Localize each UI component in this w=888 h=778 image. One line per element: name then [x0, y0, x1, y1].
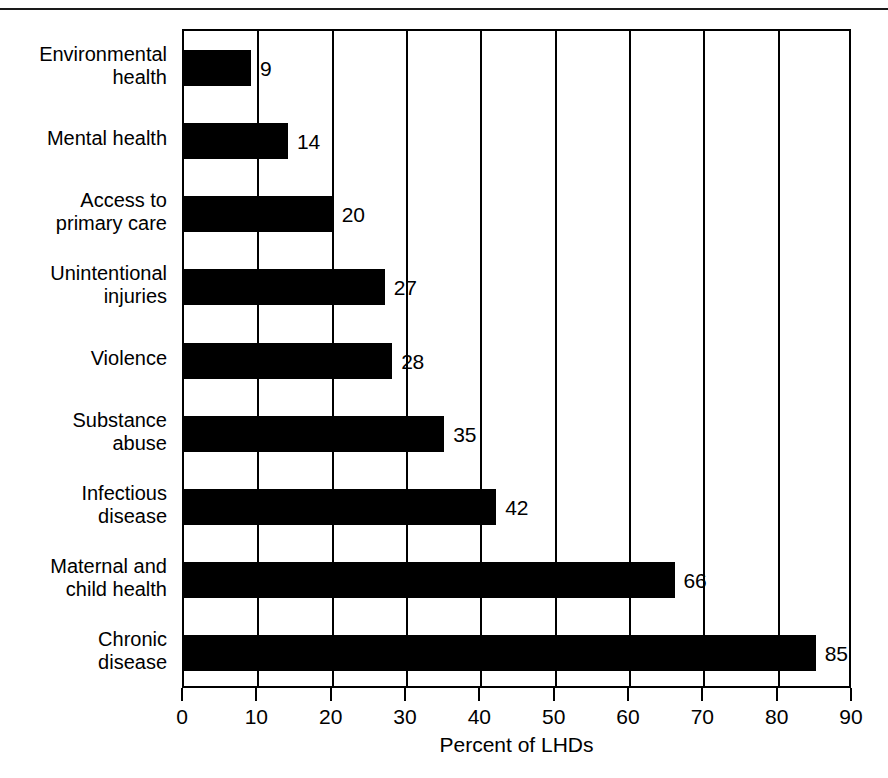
bar-row: 20 [184, 196, 849, 232]
x-tick-label-90: 90 [839, 705, 862, 729]
x-tick-0 [181, 688, 183, 701]
bar-row: 9 [184, 50, 849, 86]
bar-row: 66 [184, 562, 849, 598]
plot-area: 91420272835426685 [182, 29, 851, 688]
category-label: Unintentional injuries [0, 262, 167, 308]
bar-value-label: 85 [825, 643, 848, 664]
bar-chart-figure: 91420272835426685 Environmental healthMe… [0, 0, 888, 778]
x-tick-label-10: 10 [245, 705, 268, 729]
x-tick-label-40: 40 [468, 705, 491, 729]
bar [184, 489, 496, 525]
bar [184, 635, 816, 671]
x-tick-80 [776, 688, 778, 701]
bar-value-label: 9 [260, 57, 271, 78]
x-axis-title: Percent of LHDs [182, 733, 851, 757]
category-label: Maternal and child health [0, 555, 167, 601]
bar-row: 28 [184, 343, 849, 379]
x-tick-label-70: 70 [691, 705, 714, 729]
x-tick-label-50: 50 [542, 705, 565, 729]
bar-value-label: 14 [297, 130, 320, 151]
bar-value-label: 35 [453, 423, 476, 444]
top-divider-rule [0, 8, 888, 10]
bar [184, 123, 288, 159]
category-label: Infectious disease [0, 482, 167, 528]
category-label: Violence [0, 347, 167, 370]
x-tick-10 [255, 688, 257, 701]
category-label: Environmental health [0, 43, 167, 89]
x-tick-60 [627, 688, 629, 701]
bar [184, 50, 251, 86]
category-label: Mental health [0, 127, 167, 150]
x-tick-label-80: 80 [765, 705, 788, 729]
category-label: Access to primary care [0, 189, 167, 235]
x-tick-70 [701, 688, 703, 701]
bar-row: 42 [184, 489, 849, 525]
bar-row: 14 [184, 123, 849, 159]
bar-value-label: 66 [684, 570, 707, 591]
x-tick-50 [553, 688, 555, 701]
x-tick-20 [330, 688, 332, 701]
category-label: Substance abuse [0, 409, 167, 455]
bar [184, 196, 333, 232]
bar-row: 85 [184, 635, 849, 671]
bar-row: 35 [184, 416, 849, 452]
bar [184, 562, 675, 598]
x-tick-label-0: 0 [176, 705, 188, 729]
bar-value-label: 42 [505, 496, 528, 517]
x-tick-label-60: 60 [616, 705, 639, 729]
x-tick-label-20: 20 [319, 705, 342, 729]
x-tick-40 [478, 688, 480, 701]
category-label: Chronic disease [0, 628, 167, 674]
bar-value-label: 27 [394, 277, 417, 298]
bar-value-label: 20 [342, 204, 365, 225]
x-tick-90 [850, 688, 852, 701]
bar-value-label: 28 [401, 350, 424, 371]
bar-row: 27 [184, 269, 849, 305]
bar [184, 269, 385, 305]
x-tick-30 [404, 688, 406, 701]
bar [184, 416, 444, 452]
bar [184, 343, 392, 379]
x-tick-label-30: 30 [393, 705, 416, 729]
